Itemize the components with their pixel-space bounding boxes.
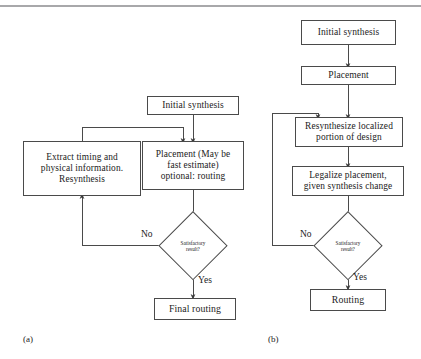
edge-label-a-yes: Yes xyxy=(198,275,212,285)
node-a-final-routing-label: Final routing xyxy=(167,303,223,314)
node-b-decision[interactable]: Satisfactory result? xyxy=(313,211,383,281)
node-a-placement[interactable]: Placement (May be fast estimate) optiona… xyxy=(142,141,244,190)
figure-container: Initial synthesis Extract timing and phy… xyxy=(0,0,421,359)
node-a-final-routing[interactable]: Final routing xyxy=(154,298,236,320)
node-a-initial-synthesis[interactable]: Initial synthesis xyxy=(147,96,239,115)
node-a-decision-label: Satisfactory result? xyxy=(181,240,206,253)
node-a-extract[interactable]: Extract timing and physical information.… xyxy=(23,141,141,196)
edge-label-b-yes: Yes xyxy=(353,272,367,282)
edge-a-extract-to-placement xyxy=(82,128,183,142)
edge-label-b-no: No xyxy=(300,229,312,239)
caption-panel-a: (a) xyxy=(23,334,33,344)
node-b-resynthesize[interactable]: Resynthesize localized portion of design xyxy=(295,117,403,147)
node-b-initial-synthesis[interactable]: Initial synthesis xyxy=(301,20,396,45)
caption-panel-b: (b) xyxy=(268,334,279,344)
node-b-legalize-label: Legalize placement, given synthesis chan… xyxy=(302,170,395,191)
node-b-routing-label: Routing xyxy=(330,294,366,305)
top-horizontal-rule xyxy=(0,5,421,7)
node-b-decision-label: Satisfactory result? xyxy=(336,240,361,253)
edge-label-a-no: No xyxy=(141,229,153,239)
node-b-placement[interactable]: Placement xyxy=(301,66,396,85)
node-b-resynthesize-label: Resynthesize localized portion of design xyxy=(303,121,395,142)
node-b-placement-label: Placement xyxy=(326,70,370,81)
node-a-decision[interactable]: Satisfactory result? xyxy=(158,211,228,281)
node-a-placement-label: Placement (May be fast estimate) optiona… xyxy=(154,149,233,181)
node-a-extract-label: Extract timing and physical information.… xyxy=(39,152,125,184)
node-a-initial-synthesis-label: Initial synthesis xyxy=(160,100,226,111)
node-b-legalize[interactable]: Legalize placement, given synthesis chan… xyxy=(292,166,404,196)
node-b-initial-synthesis-label: Initial synthesis xyxy=(316,27,382,38)
node-b-routing[interactable]: Routing xyxy=(310,289,386,311)
